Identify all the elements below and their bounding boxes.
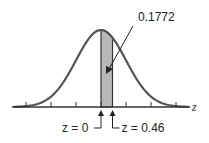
marker-label-z046: z = 0.46	[122, 121, 165, 135]
marker-label-z0: z = 0	[62, 121, 89, 135]
tick-marks	[26, 102, 176, 107]
marker-arrow-z0-icon	[98, 110, 104, 116]
axis-label-z: z	[191, 100, 197, 114]
marker-arrow-z046-icon	[110, 110, 116, 116]
area-value-label: 0.1772	[138, 10, 175, 24]
leader-line-z046	[113, 116, 120, 128]
normal-distribution-figure: z 0.1772 z = 0 z = 0.46	[0, 0, 209, 143]
leader-line-z0	[94, 116, 101, 128]
